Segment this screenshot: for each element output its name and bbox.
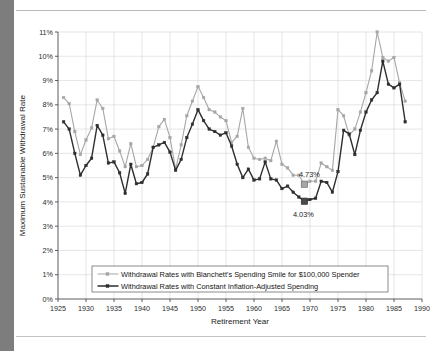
y-tick-label: 2% — [43, 246, 54, 255]
chart-legend[interactable]: Withdrawal Rates with Blanchett's Spendi… — [92, 266, 388, 292]
data-point-marker — [320, 180, 323, 183]
data-point-marker — [236, 163, 239, 166]
data-point-marker — [113, 135, 116, 138]
data-point-marker — [130, 142, 133, 145]
y-tick-label: 7% — [43, 125, 54, 134]
data-point-marker — [90, 127, 93, 130]
data-point-marker — [124, 192, 127, 195]
data-point-marker — [85, 164, 88, 167]
x-tick-label: 1985 — [386, 304, 402, 313]
y-axis-ticks: 0%1%2%3%4%5%6%7%8%9%10%11% — [39, 28, 58, 304]
series-line — [64, 61, 406, 201]
data-point-marker — [292, 191, 295, 194]
x-tick-label: 1930 — [78, 304, 94, 313]
data-point-marker — [62, 121, 65, 124]
data-point-marker — [387, 83, 390, 86]
data-point-marker — [191, 100, 194, 103]
data-point-marker — [247, 146, 250, 149]
data-point-marker — [393, 56, 396, 59]
data-point-marker — [169, 151, 172, 154]
data-point-marker — [102, 134, 105, 137]
data-point-marker — [247, 168, 250, 171]
data-point-marker — [270, 159, 273, 162]
axis-lines — [58, 32, 422, 299]
data-point-marker — [286, 167, 289, 170]
data-point-marker — [197, 85, 200, 88]
x-tick-label: 1945 — [162, 304, 178, 313]
data-point-marker — [320, 162, 323, 165]
data-point-marker — [202, 96, 205, 99]
data-point-marker — [404, 100, 407, 103]
x-tick-label: 1940 — [134, 304, 150, 313]
data-point-marker — [96, 124, 99, 127]
data-point-marker — [286, 185, 289, 188]
x-axis-ticks: 1925193019351940194519501955196019651970… — [50, 299, 430, 313]
x-tick-label: 1965 — [274, 304, 290, 313]
data-point-marker — [96, 99, 99, 102]
data-point-marker — [107, 138, 110, 141]
data-point-marker — [337, 108, 340, 111]
data-point-marker — [359, 129, 362, 132]
data-point-marker — [146, 158, 149, 161]
y-tick-label: 5% — [43, 173, 54, 182]
legend-swatch-marker — [106, 285, 109, 288]
data-point-marker — [270, 178, 273, 181]
data-point-marker — [74, 152, 77, 155]
data-point-marker — [242, 107, 245, 110]
data-point-marker — [146, 173, 149, 176]
data-point-marker — [342, 129, 345, 132]
annotation-label-403: 4.03% — [293, 210, 314, 219]
bottom-horizontal-rule — [16, 336, 426, 337]
data-point-marker — [370, 99, 373, 102]
data-point-marker — [85, 139, 88, 142]
data-point-marker — [326, 181, 329, 184]
data-point-marker — [275, 179, 278, 182]
legend-item-label[interactable]: Withdrawal Rates with Constant Inflation… — [121, 282, 318, 291]
legend-swatch-marker — [106, 273, 109, 276]
x-tick-label: 1935 — [106, 304, 122, 313]
legend-item-label[interactable]: Withdrawal Rates with Blanchett's Spendi… — [121, 270, 360, 279]
x-tick-label: 1975 — [330, 304, 346, 313]
data-point-marker — [141, 181, 144, 184]
data-point-marker — [191, 123, 194, 126]
data-point-marker — [292, 174, 295, 177]
y-tick-label: 4% — [43, 198, 54, 207]
data-point-marker — [376, 91, 379, 94]
data-point-marker — [398, 83, 401, 86]
data-point-marker — [197, 108, 200, 111]
data-point-marker — [326, 165, 329, 168]
data-point-marker — [382, 56, 385, 59]
data-point-marker — [354, 128, 357, 131]
grid-lines — [58, 32, 422, 299]
data-point-marker — [62, 96, 65, 99]
x-tick-label: 1960 — [246, 304, 262, 313]
data-point-marker — [331, 169, 334, 172]
data-point-marker — [208, 108, 211, 111]
data-point-marker — [68, 102, 71, 105]
data-point-marker — [264, 157, 267, 160]
x-tick-label: 1925 — [50, 304, 66, 313]
data-point-marker — [387, 60, 390, 63]
data-point-marker — [275, 140, 278, 143]
data-point-marker — [163, 118, 166, 121]
y-tick-label: 11% — [39, 28, 53, 37]
left-gutter-bar — [0, 0, 14, 351]
data-point-marker — [163, 141, 166, 144]
data-point-marker — [376, 31, 379, 34]
data-point-marker — [225, 131, 228, 134]
data-point-marker — [331, 191, 334, 194]
data-point-marker — [298, 196, 301, 199]
y-axis-title: Maximum Sustainable Withdrawal Rate — [18, 94, 27, 236]
data-point-marker — [253, 157, 256, 160]
data-point-marker — [186, 114, 189, 117]
data-point-marker — [174, 169, 177, 172]
data-point-marker — [202, 119, 205, 122]
data-point-marker — [219, 134, 222, 137]
data-point-marker — [309, 180, 312, 183]
data-point-marker — [74, 130, 77, 133]
data-point-marker — [370, 70, 373, 73]
annotation-marker-403 — [301, 198, 307, 204]
data-point-marker — [225, 119, 228, 122]
data-point-marker — [281, 187, 284, 190]
data-point-marker — [236, 135, 239, 138]
